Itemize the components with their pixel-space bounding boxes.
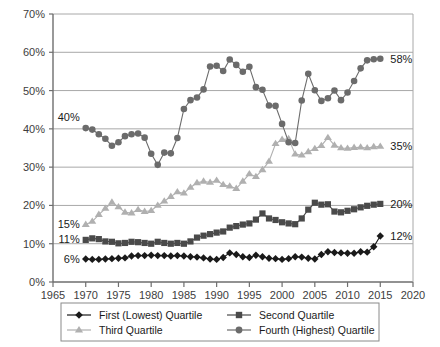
x-tick-label: 1975 <box>106 289 130 301</box>
x-tick-label: 1990 <box>204 289 228 301</box>
y-tick-label: 0% <box>29 276 45 288</box>
legend-item-label: Third Quartile <box>99 324 163 336</box>
x-tick-label: 2015 <box>368 289 392 301</box>
y-tick-label: 60% <box>23 46 45 58</box>
x-tick-label: 2005 <box>303 289 327 301</box>
series-start-labels: 40%15%11%6% <box>58 111 80 264</box>
end-value-label: 12% <box>390 230 412 242</box>
end-value-label: 20% <box>390 198 412 210</box>
y-axis-tick-labels: 0%10%20%30%40%50%60%70% <box>23 8 53 288</box>
y-tick-label: 50% <box>23 85 45 97</box>
legend: First (Lowest) QuartileSecond QuartileTh… <box>61 303 379 341</box>
series-end-labels: 12%20%35%58% <box>390 53 412 242</box>
x-tick-label: 2020 <box>401 289 425 301</box>
chart-container: 0%10%20%30%40%50%60%70%19651970197519801… <box>0 0 440 347</box>
end-value-label: 58% <box>390 53 412 65</box>
x-tick-label: 1995 <box>237 289 261 301</box>
start-value-label: 11% <box>59 233 80 245</box>
y-tick-label: 20% <box>23 199 45 211</box>
x-axis-tick-labels: 1965197019751980198519901995200020052010… <box>41 282 425 301</box>
legend-item-label: First (Lowest) Quartile <box>99 309 202 321</box>
x-tick-label: 1985 <box>172 289 196 301</box>
series-diamond <box>82 232 384 263</box>
start-value-label: 40% <box>58 111 80 123</box>
x-tick-label: 1965 <box>41 289 65 301</box>
end-value-label: 35% <box>390 140 412 152</box>
series-circle <box>82 55 383 168</box>
x-tick-label: 2010 <box>335 289 359 301</box>
legend-item-label: Second Quartile <box>259 309 334 321</box>
x-tick-label: 1970 <box>73 289 97 301</box>
y-tick-label: 70% <box>23 8 45 20</box>
series-square <box>83 200 384 247</box>
start-value-label: 15% <box>58 218 80 230</box>
start-value-label: 6% <box>64 253 80 265</box>
y-tick-label: 10% <box>23 238 45 250</box>
quartile-line-chart: 0%10%20%30%40%50%60%70%19651970197519801… <box>0 0 440 347</box>
y-tick-label: 40% <box>23 123 45 135</box>
x-tick-label: 2000 <box>270 289 294 301</box>
y-tick-label: 30% <box>23 161 45 173</box>
x-tick-label: 1980 <box>139 289 163 301</box>
legend-item-label: Fourth (Highest) Quartile <box>259 324 375 336</box>
